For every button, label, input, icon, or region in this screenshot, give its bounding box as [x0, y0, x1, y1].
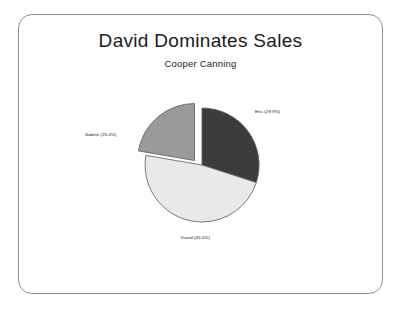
pie-label-sabine: Sabine (25.0%)	[85, 133, 117, 137]
pie-label-david: David (45.0%)	[181, 236, 210, 240]
title-block: David Dominates Sales Cooper Canning	[19, 31, 382, 69]
pie-label-eric: Eric (29.9%)	[255, 110, 280, 114]
pie-slice-sabine[interactable]	[138, 104, 194, 161]
pie-chart: Eric (29.9%) Sabine (25.0%) David (45.0%…	[19, 93, 384, 293]
slide-frame: David Dominates Sales Cooper Canning Eri…	[18, 14, 383, 294]
chart-subtitle: Cooper Canning	[19, 58, 382, 69]
page-title: David Dominates Sales	[19, 31, 382, 52]
pie-chart-svg	[102, 93, 302, 243]
